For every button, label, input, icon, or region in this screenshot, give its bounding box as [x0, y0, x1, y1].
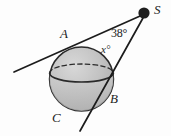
- label-angle-x-degrees: x°: [101, 44, 110, 55]
- geometry-figure: A B C S 38° x°: [0, 0, 171, 136]
- diagram-canvas: [0, 0, 171, 136]
- label-point-b: B: [110, 92, 118, 105]
- label-point-a: A: [60, 27, 68, 40]
- label-point-c: C: [52, 111, 61, 124]
- label-point-s: S: [154, 3, 161, 16]
- label-angle-38-degrees: 38°: [111, 27, 127, 39]
- point-s-dot: [138, 7, 149, 18]
